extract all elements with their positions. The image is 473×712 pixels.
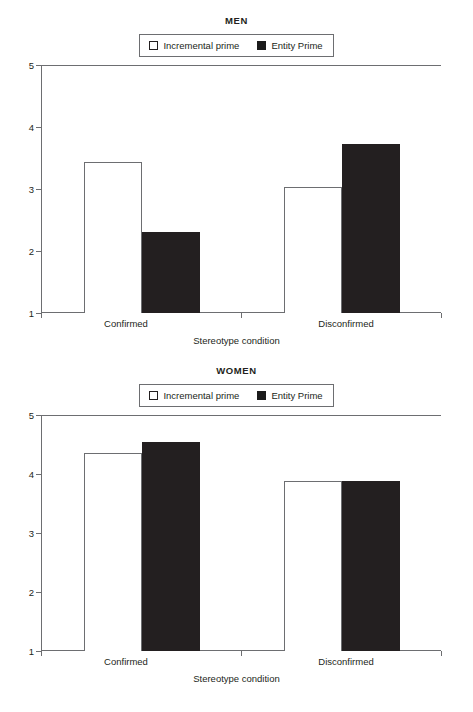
xlabel-men-confirmed: Confirmed [104,318,148,329]
legend-label-incremental-prime: Incremental prime [163,40,239,51]
ytick-label-men-1: 1 [0,309,34,318]
legend-label-entity-prime: Entity Prime [271,390,322,401]
axis-title-women: Stereotype condition [0,673,473,684]
legend-item-incremental-prime-men: Incremental prime [149,40,239,51]
figure-page: MEN Incremental prime Entity Prime 1 2 3… [0,0,473,712]
white-square-icon [149,41,158,50]
bars-layer-women [41,415,441,651]
legend-wrap-women: Incremental prime Entity Prime [0,384,473,407]
legend-item-incremental-prime-women: Incremental prime [149,390,239,401]
ytick-label-men-3: 3 [0,185,34,194]
ytick-label-men-2: 2 [0,247,34,256]
bar-men-confirmed-entity [142,232,200,313]
bar-women-disconfirmed-incremental [284,481,342,651]
white-square-icon [149,391,158,400]
legend-item-entity-prime-men: Entity Prime [257,40,322,51]
legend-women: Incremental prime Entity Prime [139,384,333,407]
plot-area-men: 1 2 3 4 5 Con [0,65,473,313]
chart-title-men: MEN [0,0,473,28]
xtick-mark-women-mid [241,651,242,656]
xlabel-women-disconfirmed: Disconfirmed [318,656,373,667]
bar-women-confirmed-incremental [84,453,142,651]
ytick-label-women-4: 4 [0,470,34,479]
bars-layer-men [41,65,441,313]
ytick-label-men-4: 4 [0,123,34,132]
chart-title-women: WOMEN [0,350,473,378]
xlabel-men-disconfirmed: Disconfirmed [318,318,373,329]
xtick-mark-women-right [441,651,442,656]
legend-men: Incremental prime Entity Prime [139,34,333,57]
bar-women-confirmed-entity [142,442,200,651]
legend-label-incremental-prime: Incremental prime [163,390,239,401]
bar-men-disconfirmed-incremental [284,187,342,313]
ytick-label-women-1: 1 [0,647,34,656]
xtick-mark-women-left [41,651,42,656]
xtick-mark-men-left [41,313,42,318]
ytick-label-women-3: 3 [0,529,34,538]
xtick-mark-men-right [441,313,442,318]
ytick-label-women-5: 5 [0,411,34,420]
xtick-mark-men-mid [241,313,242,318]
bar-men-confirmed-incremental [84,162,142,313]
black-square-icon [257,391,266,400]
xlabel-women-confirmed: Confirmed [104,656,148,667]
legend-label-entity-prime: Entity Prime [271,40,322,51]
bar-men-disconfirmed-entity [342,144,400,313]
legend-item-entity-prime-women: Entity Prime [257,390,322,401]
legend-wrap-men: Incremental prime Entity Prime [0,34,473,57]
bar-women-disconfirmed-entity [342,481,400,652]
plot-area-women: 1 2 3 4 5 Confirmed Disconfirm [0,415,473,651]
ytick-label-women-2: 2 [0,588,34,597]
axis-title-men: Stereotype condition [0,335,473,346]
ytick-label-men-5: 5 [0,61,34,70]
chart-men: MEN Incremental prime Entity Prime 1 2 3… [0,0,473,360]
chart-women: WOMEN Incremental prime Entity Prime 1 2… [0,350,473,712]
black-square-icon [257,41,266,50]
